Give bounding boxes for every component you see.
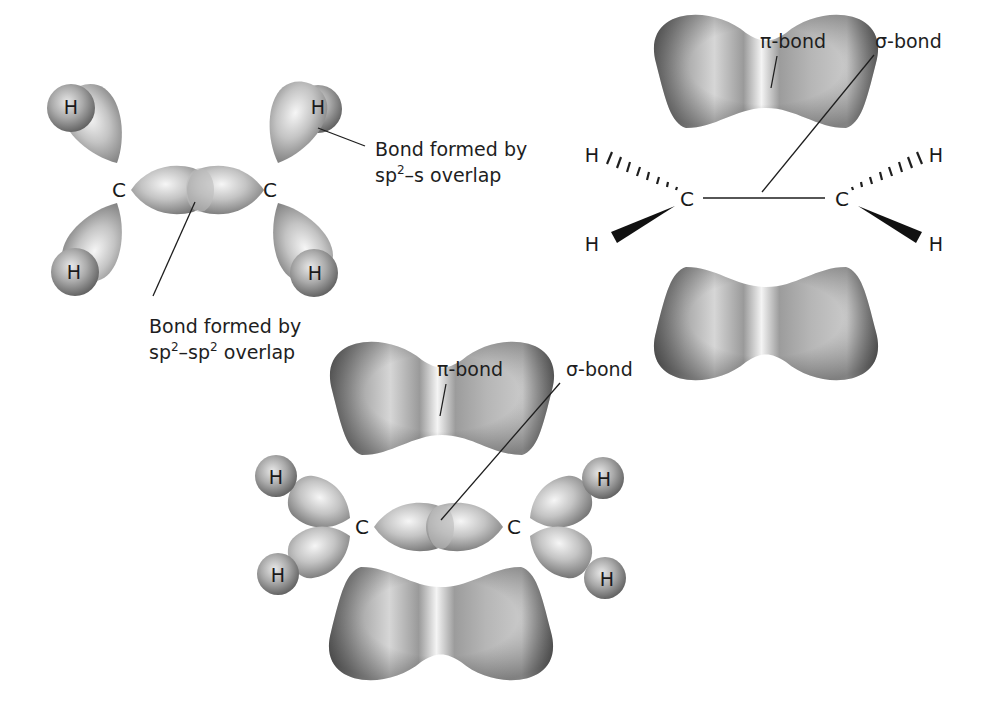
callout-line-1: Bond formed by [375,136,527,162]
hydrogen-label: H [269,466,283,488]
hydrogen-label: H [64,96,78,118]
combined-panel [255,342,626,680]
sp2-sp2-leader-line [153,202,195,296]
pi-bond-label: π-bond [760,28,826,54]
sp2-s-leader-line [318,128,365,146]
pi-lobe-bottom [329,567,553,680]
hydrogen-label: H [585,144,599,166]
hashed-bond-right [852,152,922,190]
callout-line-1: Bond formed by [149,313,301,339]
carbon-label: C [263,178,277,202]
callout-line-2: sp2–sp2 overlap [149,339,301,365]
pi-sigma-wedge-panel [607,15,922,380]
hydrogen-label: H [929,144,943,166]
sp2-s-overlap-callout: Bond formed by sp2–s overlap [375,136,527,188]
hydrogen-label: H [271,564,285,586]
hydrogen-label: H [311,96,325,118]
sp2-sp2-overlap-callout: Bond formed by sp2–sp2 overlap [149,313,301,365]
hydrogen-label: H [929,233,943,255]
sigma-overlap-lobes [374,503,503,551]
hashed-bond-left [607,152,677,190]
left-carbon-sp2-lobes [47,75,141,296]
carbon-label: C [680,187,694,211]
hydrogen-label: H [67,261,81,283]
carbon-label: C [507,515,521,539]
pi-lobe-bottom [654,267,878,380]
hydrogen-label: H [600,568,614,590]
sigma-bond-label: σ-bond [566,356,633,382]
carbon-label: C [355,515,369,539]
hydrogen-label: H [597,468,611,490]
hydrogen-label: H [585,233,599,255]
wedge-bond-left [611,206,675,243]
sp2-sp2-overlap-lobes [131,166,264,214]
carbon-label: C [835,187,849,211]
pi-bond-label: π-bond [437,356,503,382]
carbon-label: C [112,178,126,202]
hydrogen-label: H [308,262,322,284]
wedge-bond-right [858,206,922,243]
callout-line-2: sp2–s overlap [375,162,527,188]
sigma-bond-label: σ-bond [875,28,942,54]
